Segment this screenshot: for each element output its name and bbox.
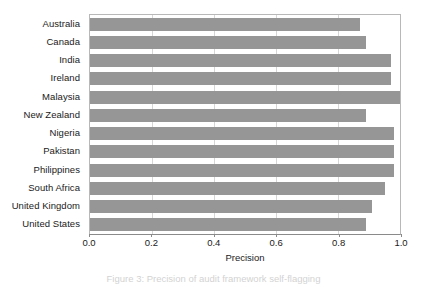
y-axis-tick-label: United Kingdom [0, 197, 85, 215]
bar-row [90, 198, 400, 216]
y-axis-tick-label: Pakistan [0, 142, 85, 160]
y-axis-tick-label: Ireland [0, 69, 85, 87]
x-axis-tick-label: 0.2 [145, 237, 158, 248]
figure-container: AustraliaCanadaIndiaIrelandMalaysiaNew Z… [0, 0, 427, 287]
bar-row [90, 161, 400, 179]
bar [90, 164, 394, 177]
bar-series [90, 15, 400, 234]
x-axis-title: Precision [89, 252, 401, 263]
bar-row [90, 52, 400, 70]
y-axis-tick-label: Canada [0, 32, 85, 50]
bar-row [90, 106, 400, 124]
bar [90, 91, 400, 104]
bar-row [90, 70, 400, 88]
x-axis-tick-label: 0.0 [82, 237, 95, 248]
bar-row [90, 143, 400, 161]
bar [90, 54, 391, 67]
bar-row [90, 216, 400, 234]
bar [90, 182, 385, 195]
y-axis-tick-label: India [0, 51, 85, 69]
bar-row [90, 179, 400, 197]
bar [90, 218, 366, 231]
plot-area [89, 14, 401, 235]
x-axis-tick-labels: 0.00.20.40.60.81.0 [89, 237, 401, 251]
y-axis-tick-label: Australia [0, 14, 85, 32]
y-axis-tick-label: Nigeria [0, 124, 85, 142]
chart-plot-wrapper: AustraliaCanadaIndiaIrelandMalaysiaNew Z… [0, 0, 427, 248]
bar [90, 72, 391, 85]
bar-row [90, 15, 400, 33]
bar [90, 18, 360, 31]
y-axis-tick-label: New Zealand [0, 105, 85, 123]
bar [90, 109, 366, 122]
bar [90, 127, 394, 140]
bar [90, 200, 372, 213]
x-axis-tick-label: 0.8 [332, 237, 345, 248]
x-axis-tick-label: 1.0 [394, 237, 407, 248]
y-axis-tick-label: United States [0, 215, 85, 233]
y-axis-tick-label: Malaysia [0, 87, 85, 105]
bar-row [90, 33, 400, 51]
y-axis-tick-label: South Africa [0, 178, 85, 196]
bar [90, 36, 366, 49]
x-axis-tick-label: 0.6 [270, 237, 283, 248]
y-axis-tick-label: Philippines [0, 160, 85, 178]
y-axis-category-labels: AustraliaCanadaIndiaIrelandMalaysiaNew Z… [0, 14, 85, 233]
bar-row [90, 125, 400, 143]
bar [90, 145, 394, 158]
figure-caption: Figure 3: Precision of audit framework s… [0, 273, 427, 284]
bar-row [90, 88, 400, 106]
x-axis-tick-label: 0.4 [207, 237, 220, 248]
